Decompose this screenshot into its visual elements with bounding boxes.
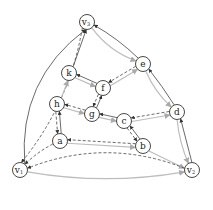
edge-v1-to-v2: [28, 172, 185, 179]
edge-a-to-b: [67, 143, 135, 147]
node-label: c: [121, 116, 126, 126]
edge-f-to-k: [77, 74, 97, 83]
edge-a-to-h: [59, 111, 61, 133]
edge-c-to-d: [132, 115, 170, 121]
edge-h-to-k: [61, 81, 68, 98]
node-label: k: [66, 68, 72, 78]
node-label: a: [57, 136, 63, 146]
edge-layer: [21, 25, 191, 179]
edge-a-to-v1: [25, 144, 53, 164]
node-a: a: [53, 134, 68, 149]
edge-v3-to-v1: [21, 28, 82, 162]
node-v1: v1: [13, 163, 28, 178]
edge-e-to-v3: [94, 25, 138, 58]
edge-v3-to-e: [92, 28, 136, 61]
edge-k-to-f: [75, 78, 95, 87]
node-label: d: [174, 107, 180, 117]
edge-b-to-a: [68, 140, 136, 144]
edge-v2-to-d: [181, 119, 192, 162]
node-d: d: [170, 105, 185, 120]
node-e: e: [136, 57, 151, 72]
edge-d-to-c: [131, 111, 169, 117]
edge-c-to-g: [100, 114, 117, 118]
edge-h-to-g: [64, 108, 85, 114]
edge-e-to-d: [146, 71, 171, 107]
edge-f-to-e: [110, 69, 137, 85]
edge-k-to-v3: [73, 30, 86, 67]
edge-g-to-f: [97, 96, 102, 108]
edge-b-to-v2: [149, 151, 185, 168]
node-label: g: [89, 109, 95, 119]
edge-v2-to-v1: [28, 153, 185, 168]
node-h: h: [50, 97, 65, 112]
graph-diagram: v3kfehgcdabv1v2: [0, 0, 213, 210]
edge-b-to-c: [130, 126, 140, 139]
node-k: k: [62, 66, 77, 81]
node-b: b: [136, 139, 151, 154]
node-v2: v2: [185, 163, 200, 178]
node-g: g: [85, 107, 100, 122]
node-f: f: [96, 81, 111, 96]
node-label: e: [140, 59, 145, 69]
edge-g-to-c: [99, 117, 116, 121]
edge-c-to-b: [127, 128, 137, 141]
edge-d-to-e: [149, 69, 174, 105]
edge-h-to-a: [56, 112, 58, 134]
edge-e-to-f: [109, 66, 136, 82]
node-c: c: [117, 114, 132, 129]
node-label: b: [140, 141, 146, 151]
node-label: h: [54, 99, 60, 109]
node-v3: v3: [80, 15, 95, 30]
